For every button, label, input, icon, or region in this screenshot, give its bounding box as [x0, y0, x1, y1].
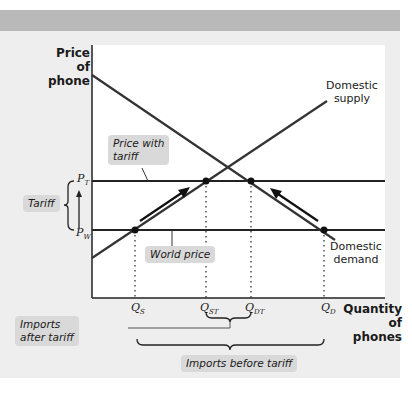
y-axis-title-line2: phone	[44, 74, 90, 88]
qst-sub: ST	[209, 308, 218, 316]
demand-movement-arrow	[270, 188, 318, 221]
qs-label: QS	[131, 301, 145, 316]
imports-before-tariff-brace	[137, 339, 324, 350]
qd-letter: Q	[321, 301, 330, 314]
price-with-tariff-leader	[142, 168, 148, 181]
qst-label: QST	[200, 301, 219, 316]
point-qdt-pt	[248, 178, 255, 185]
price-with-tariff-line1: Price with	[113, 137, 164, 150]
supply-movement-arrow	[140, 187, 190, 221]
qd-label: QD	[321, 301, 336, 316]
qs-sub: S	[140, 308, 145, 316]
domestic-demand-label: Domestic demand	[326, 240, 386, 266]
world-price-callout: World price	[145, 246, 215, 263]
point-qst-pt	[203, 178, 210, 185]
y-axis-title-line1: Price of	[44, 46, 90, 74]
demand-label-line2: demand	[326, 253, 386, 266]
x-axis-title-line2: of phones	[338, 316, 402, 344]
demand-label-line1: Domestic	[326, 240, 386, 253]
tariff-text: Tariff	[28, 197, 55, 209]
tariff-callout: Tariff	[23, 195, 60, 212]
qd-sub: D	[330, 308, 336, 316]
pw-sub: W	[83, 233, 90, 241]
pt-sub: T	[84, 179, 89, 187]
price-with-tariff-callout: Price with tariff	[108, 135, 169, 165]
qs-letter: Q	[131, 301, 140, 314]
x-axis-title: Quantity of phones	[338, 302, 402, 344]
tariff-brace	[64, 181, 74, 230]
imports-after-tariff-line2: after tariff	[20, 331, 74, 344]
y-axis-title: Price of phone	[44, 46, 90, 88]
supply-label-line2: supply	[322, 92, 382, 105]
price-with-tariff-line2: tariff	[113, 150, 164, 163]
domestic-supply-curve	[92, 101, 327, 258]
supply-label-line1: Domestic	[322, 79, 382, 92]
pt-label: PT	[77, 172, 89, 187]
qdt-sub: DT	[254, 308, 264, 316]
qdt-label: QDT	[245, 301, 264, 316]
domestic-supply-label: Domestic supply	[322, 79, 382, 105]
point-qs-pw	[132, 227, 139, 234]
qst-letter: Q	[200, 301, 209, 314]
imports-after-tariff-callout: Imports after tariff	[15, 316, 79, 346]
imports-before-tariff-callout: Imports before tariff	[181, 355, 297, 372]
point-qd-pw	[321, 227, 328, 234]
imports-before-tariff-text: Imports before tariff	[186, 357, 292, 369]
x-axis-title-line1: Quantity	[338, 302, 402, 316]
qdt-letter: Q	[245, 301, 254, 314]
tariff-up-arrow	[76, 190, 82, 228]
world-price-text: World price	[150, 248, 210, 260]
imports-after-tariff-line1: Imports	[20, 318, 74, 331]
pw-label: PW	[76, 226, 91, 241]
